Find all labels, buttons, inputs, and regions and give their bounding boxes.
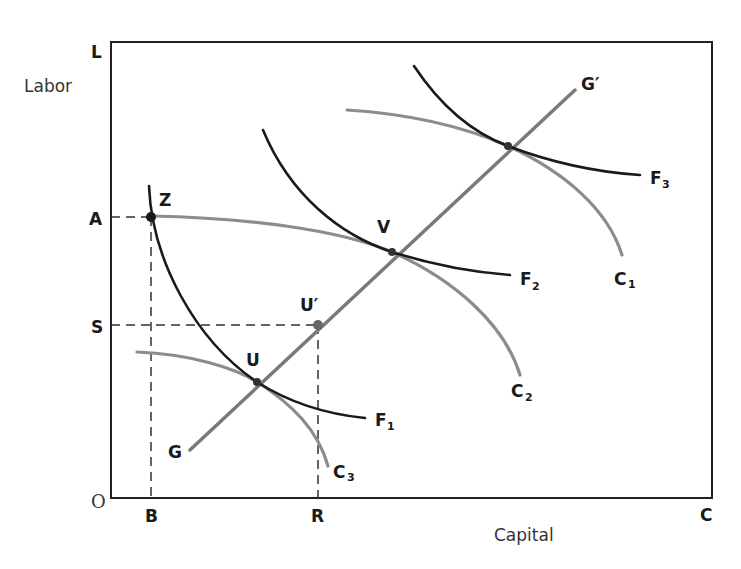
- label-G: G: [168, 442, 182, 462]
- point-V: [388, 248, 396, 256]
- curve-label-C1: C 1: [614, 269, 636, 291]
- point-U: [253, 378, 261, 386]
- curve-label-F2: F 2: [520, 269, 540, 293]
- curve-F2: [263, 130, 510, 275]
- svg-text:1: 1: [387, 420, 395, 433]
- corner-label-L: L: [91, 42, 102, 62]
- svg-text:F: F: [520, 269, 532, 289]
- point-top: [504, 142, 512, 150]
- svg-text:C: C: [614, 269, 626, 289]
- x-axis-title: Capital: [494, 525, 554, 545]
- svg-text:3: 3: [347, 471, 355, 484]
- curve-C2: [151, 216, 520, 375]
- y-axis-title: Labor: [24, 76, 72, 96]
- svg-text:1: 1: [628, 278, 636, 291]
- point-U-prime: [313, 320, 323, 330]
- svg-text:F: F: [375, 410, 387, 430]
- label-Z: Z: [159, 190, 171, 210]
- x-tick-R: R: [311, 506, 324, 526]
- origin-label-O: O: [91, 491, 106, 512]
- points: [146, 142, 512, 386]
- y-tick-S: S: [91, 317, 103, 337]
- corner-label-C: C: [700, 505, 712, 525]
- svg-text:2: 2: [532, 280, 540, 293]
- curve-label-C3: C 3: [333, 462, 355, 484]
- edgeworth-box-diagram: Labor Capital L C O A S B R Z U U′ V G G…: [0, 0, 741, 569]
- svg-text:2: 2: [525, 391, 533, 404]
- label-V: V: [377, 217, 391, 237]
- curve-F3: [414, 66, 640, 175]
- label-U-prime: U′: [300, 295, 319, 315]
- svg-text:3: 3: [662, 178, 670, 191]
- curve-label-F1: F 1: [375, 410, 395, 433]
- svg-text:C: C: [333, 462, 345, 482]
- label-G-prime: G′: [581, 74, 600, 94]
- x-tick-B: B: [145, 506, 158, 526]
- label-U: U: [246, 350, 260, 370]
- point-Z: [146, 212, 156, 222]
- curve-label-F3: F 3: [650, 168, 670, 191]
- curve-label-C2: C 2: [511, 381, 533, 404]
- y-tick-A: A: [89, 209, 103, 229]
- svg-text:C: C: [511, 381, 523, 401]
- svg-text:F: F: [650, 168, 662, 188]
